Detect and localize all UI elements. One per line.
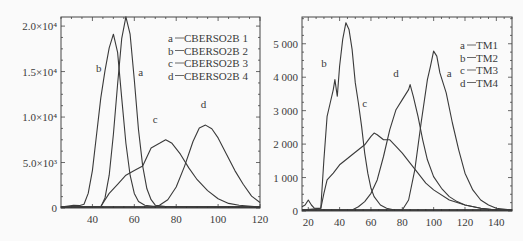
y-tick-label: 3 000 xyxy=(273,105,298,117)
figure: 40608010012005.0×10³1.0×10⁴1.5×10⁴2.0×10… xyxy=(0,0,523,241)
y-tick-label: 2 000 xyxy=(273,138,298,150)
series-line-c xyxy=(302,133,512,210)
x-tick-label: 80 xyxy=(171,213,183,225)
x-tick-label: 100 xyxy=(210,213,227,225)
legend-key-a: a xyxy=(168,32,173,44)
y-tick-label: 4 000 xyxy=(273,71,298,83)
legend-key-d: d xyxy=(168,70,174,82)
y-tick-label: 1.5×10⁴ xyxy=(22,66,57,78)
curve-label-c: c xyxy=(153,113,158,125)
x-tick-label: 100 xyxy=(425,216,442,228)
x-tick-label: 60 xyxy=(129,213,141,225)
curve-label-b: b xyxy=(96,62,102,74)
left-chart-cbers: 40608010012005.0×10³1.0×10⁴1.5×10⁴2.0×10… xyxy=(22,17,269,225)
legend-text-c: CBERSO2B 3 xyxy=(184,57,248,69)
curve-label-a: a xyxy=(447,67,452,79)
x-tick-label: 80 xyxy=(397,216,409,228)
legend-key-c: c xyxy=(460,64,465,76)
y-tick-label: 0 xyxy=(293,205,299,217)
right-chart-tm: 2040608010012014001 0002 0003 0004 0005 … xyxy=(273,17,512,228)
legend-text-b: CBERSO2B 2 xyxy=(184,45,248,57)
y-tick-label: 2.0×10⁴ xyxy=(22,20,57,32)
x-tick-label: 40 xyxy=(87,213,99,225)
x-tick-label: 120 xyxy=(252,213,269,225)
legend-text-c: TM3 xyxy=(476,64,499,76)
curve-label-c: c xyxy=(362,97,367,109)
y-tick-label: 1.0×10⁴ xyxy=(22,111,57,123)
legend-key-b: b xyxy=(168,45,174,57)
curve-label-d: d xyxy=(201,98,207,110)
legend-key-c: c xyxy=(168,57,173,69)
curve-label-d: d xyxy=(393,67,399,79)
y-tick-label: 1 000 xyxy=(273,172,298,184)
x-tick-label: 20 xyxy=(303,216,315,228)
legend-text-d: TM4 xyxy=(476,77,499,89)
legend-text-d: CBERSO2B 4 xyxy=(184,70,248,82)
curve-label-b: b xyxy=(321,57,327,69)
legend-key-d: d xyxy=(460,77,466,89)
x-tick-label: 60 xyxy=(365,216,377,228)
series-line-d xyxy=(302,85,512,210)
legend-text-b: TM2 xyxy=(476,52,498,64)
x-tick-label: 120 xyxy=(457,216,474,228)
x-tick-label: 140 xyxy=(488,216,505,228)
y-tick-label: 5 000 xyxy=(273,38,298,50)
y-tick-label: 0 xyxy=(52,202,58,214)
legend-text-a: TM1 xyxy=(476,39,498,51)
legend-text-a: CBERSO2B 1 xyxy=(184,32,248,44)
series-line-d xyxy=(61,125,260,207)
legend-key-b: b xyxy=(460,52,466,64)
curve-label-a: a xyxy=(138,66,143,78)
y-tick-label: 5.0×10³ xyxy=(23,157,58,169)
legend-key-a: a xyxy=(460,39,465,51)
x-tick-label: 40 xyxy=(334,216,346,228)
series-line-c xyxy=(61,140,260,207)
